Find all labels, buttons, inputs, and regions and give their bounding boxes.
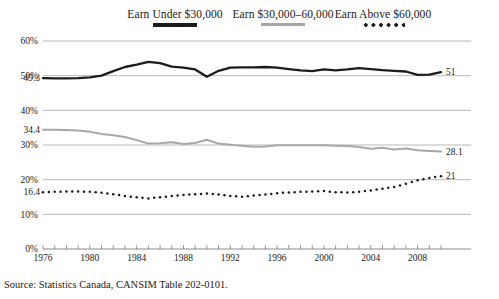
series-dot (71, 190, 74, 193)
chart-x-axis-ticks (43, 245, 441, 249)
series-dot (206, 192, 209, 195)
series-dot (270, 193, 273, 196)
series-dot (410, 181, 413, 184)
series-dot (352, 191, 355, 194)
series-earn-above-60-000 (42, 175, 443, 200)
series-dot (188, 193, 191, 196)
series-dot (364, 190, 367, 193)
series-dot (340, 191, 343, 194)
series-dot (53, 191, 56, 194)
x-axis-label-2000: 2000 (314, 253, 333, 263)
end-value-label-earn-above-60-000: 21 (446, 171, 456, 181)
series-dot (387, 187, 390, 190)
series-dot (258, 194, 261, 197)
series-dot (130, 195, 133, 198)
x-axis-label-1980: 1980 (80, 253, 99, 263)
series-dot (217, 193, 220, 196)
series-dot (334, 191, 337, 194)
x-axis-label-1992: 1992 (221, 253, 240, 263)
series-dot (159, 196, 162, 199)
chart-container: Earn Under $30,000 Earn $30,000–60,000 E… (0, 0, 499, 299)
series-dot (358, 191, 361, 194)
chart-series-layer (42, 62, 443, 200)
series-dot (77, 190, 80, 193)
end-value-label-earn-30-000-60-000: 28.1 (446, 147, 463, 157)
series-dot (94, 191, 97, 194)
start-value-label-earn-under-30-000: 49.3 (23, 73, 40, 83)
series-dot (48, 191, 51, 194)
series-dot (323, 190, 326, 193)
chart-plot-area: 0%10%20%30%40%50%60% 1976198019841988199… (0, 0, 499, 299)
chart-source-note: Source: Statistics Canada, CANSIM Table … (4, 279, 228, 290)
series-dot (428, 177, 431, 180)
y-axis-label-30pct: 30% (21, 140, 39, 150)
series-dot (422, 178, 425, 181)
series-dot (200, 193, 203, 196)
series-dot (329, 190, 332, 193)
series-dot (147, 197, 150, 200)
series-earn-30-000-60-000 (43, 130, 441, 152)
series-dot (416, 179, 419, 182)
series-dot (264, 193, 267, 196)
x-axis-label-1976: 1976 (34, 253, 53, 263)
series-dot (194, 193, 197, 196)
y-axis-label-10pct: 10% (21, 210, 39, 220)
series-dot (59, 190, 62, 193)
start-value-label-earn-30-000-60-000: 34.4 (23, 125, 40, 135)
series-dot (235, 195, 238, 198)
series-dot (293, 191, 296, 194)
series-dot (405, 183, 408, 186)
series-dot (165, 195, 168, 198)
series-dot (182, 194, 185, 197)
end-value-label-earn-under-30-000: 51 (446, 67, 456, 77)
series-dot (399, 184, 402, 187)
series-dot (106, 192, 109, 195)
series-dot (171, 195, 174, 198)
series-dot (370, 189, 373, 192)
chart-x-axis-labels: 197619801984198819921996200020042008 (34, 253, 428, 263)
series-dot (241, 195, 244, 198)
series-dot (393, 186, 396, 189)
series-dot (288, 191, 291, 194)
series-dot (311, 190, 314, 193)
series-dot (141, 197, 144, 200)
series-dot (153, 197, 156, 200)
y-axis-label-60pct: 60% (21, 36, 39, 46)
series-dot (381, 187, 384, 190)
series-dot (124, 195, 127, 198)
series-dot (317, 190, 320, 193)
series-dot (434, 176, 437, 179)
start-value-label-earn-above-60-000: 16.4 (23, 187, 40, 197)
y-axis-label-20pct: 20% (21, 175, 39, 185)
chart-y-axis-labels: 0%10%20%30%40%50%60% (21, 36, 39, 254)
series-dot (252, 194, 255, 197)
x-axis-label-1996: 1996 (268, 253, 287, 263)
series-dot (211, 193, 214, 196)
series-dot (176, 194, 179, 197)
y-axis-label-40pct: 40% (21, 106, 39, 116)
x-axis-label-1984: 1984 (127, 253, 146, 263)
x-axis-label-2004: 2004 (361, 253, 380, 263)
series-dot (247, 195, 250, 198)
series-dot (229, 195, 232, 198)
x-axis-label-2008: 2008 (408, 253, 427, 263)
series-dot (276, 192, 279, 195)
series-dot (100, 192, 103, 195)
series-dot (299, 191, 302, 194)
series-dot (42, 191, 45, 194)
series-dot (440, 175, 443, 178)
series-dot (135, 196, 138, 199)
series-dot (112, 193, 115, 196)
series-dot (83, 190, 86, 193)
series-dot (118, 194, 121, 197)
series-dot (65, 190, 68, 193)
series-dot (223, 194, 226, 197)
x-axis-label-1988: 1988 (174, 253, 193, 263)
series-dot (346, 191, 349, 194)
series-dot (89, 191, 92, 194)
series-dot (305, 190, 308, 193)
series-dot (282, 192, 285, 195)
series-dot (375, 188, 378, 191)
